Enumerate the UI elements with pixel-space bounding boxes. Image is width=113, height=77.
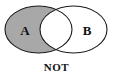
set-a-label: A [20, 23, 30, 38]
caption-row: NOT [0, 57, 113, 75]
venn-diagram-container: A B NOT [0, 0, 113, 77]
venn-diagram-graphic: A B [0, 0, 113, 60]
set-b-label: B [83, 23, 92, 38]
operation-caption: NOT [44, 61, 70, 73]
